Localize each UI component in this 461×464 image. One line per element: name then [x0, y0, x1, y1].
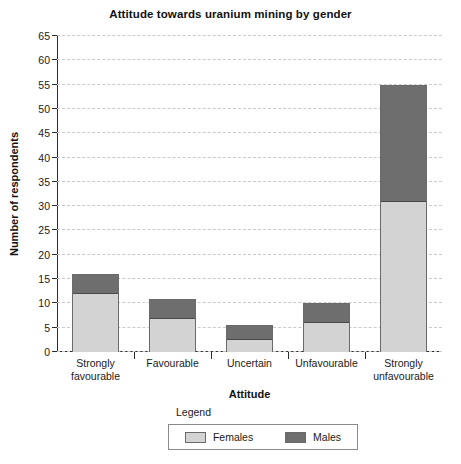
legend-box: FemalesMales — [168, 424, 358, 450]
x-axis-label: Stronglyfavourable — [57, 357, 134, 382]
x-axis-label: Uncertain — [211, 357, 288, 382]
bar-slot — [288, 36, 365, 352]
stacked-bar[interactable] — [72, 274, 120, 352]
y-axis-title-label: Number of respondents — [8, 132, 20, 256]
y-tick-label: 30 — [38, 200, 50, 212]
y-tick-label: 65 — [38, 30, 50, 42]
y-tick-label: 50 — [38, 103, 50, 115]
y-tick-label: 10 — [38, 297, 50, 309]
y-tick-label: 45 — [38, 127, 50, 139]
bars-layer — [57, 36, 442, 352]
y-tick-label: 15 — [38, 273, 50, 285]
bar-slot — [211, 36, 288, 352]
bar-segment-females[interactable] — [73, 294, 119, 352]
y-tick-label: 55 — [38, 79, 50, 91]
stacked-bar[interactable] — [149, 299, 197, 352]
bar-slot — [57, 36, 134, 352]
x-axis-title: Attitude — [57, 388, 442, 400]
bar-segment-females[interactable] — [150, 319, 196, 352]
y-tick-label: 5 — [44, 322, 50, 334]
bar-segment-females[interactable] — [304, 323, 350, 352]
y-tick-label: 40 — [38, 152, 50, 164]
y-tick-label: 0 — [44, 346, 50, 358]
stacked-bar[interactable] — [303, 303, 351, 352]
bar-segment-males[interactable] — [150, 300, 196, 319]
bar-slot — [134, 36, 211, 352]
plot-area: 05101520253035404550556065 — [57, 36, 442, 352]
males-swatch — [285, 432, 306, 443]
stacked-bar[interactable] — [380, 85, 428, 352]
stacked-bar-chart: Attitude towards uranium mining by gende… — [0, 0, 461, 464]
y-tick-label: 60 — [38, 54, 50, 66]
bar-segment-males[interactable] — [73, 275, 119, 294]
x-axis-label: Stronglyunfavourable — [365, 357, 442, 382]
y-tick-label: 35 — [38, 176, 50, 188]
legend-item-label: Males — [313, 431, 341, 443]
legend-item-label: Females — [213, 431, 253, 443]
legend-item[interactable]: Females — [185, 431, 253, 443]
bar-slot — [365, 36, 442, 352]
stacked-bar[interactable] — [226, 325, 274, 352]
x-axis-labels: StronglyfavourableFavourableUncertainUnf… — [57, 357, 442, 382]
bar-segment-males[interactable] — [304, 304, 350, 323]
females-swatch — [185, 432, 206, 443]
chart-title: Attitude towards uranium mining by gende… — [0, 8, 461, 20]
y-tick-label: 25 — [38, 224, 50, 236]
y-tick-label: 20 — [38, 249, 50, 261]
legend-item[interactable]: Males — [285, 431, 341, 443]
bar-segment-females[interactable] — [227, 340, 273, 352]
bar-segment-males[interactable] — [227, 326, 273, 340]
bar-segment-females[interactable] — [381, 202, 427, 352]
legend-title: Legend — [176, 406, 211, 418]
x-axis-label: Favourable — [134, 357, 211, 382]
bar-segment-males[interactable] — [381, 86, 427, 202]
x-axis-label: Unfavourable — [288, 357, 365, 382]
y-axis-title: Number of respondents — [6, 36, 22, 352]
